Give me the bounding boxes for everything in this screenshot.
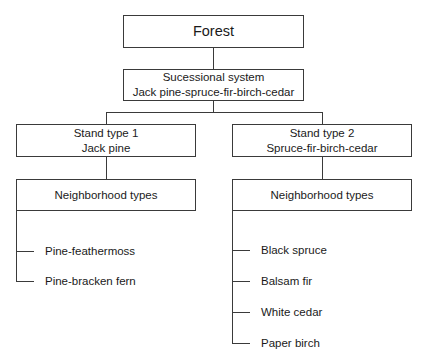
stand-1-subtitle: Jack pine	[82, 141, 131, 156]
list-2-spine	[232, 210, 233, 344]
list-2-tick-4	[232, 343, 250, 344]
connector-stand1-down	[106, 112, 107, 124]
list-1-spine	[16, 210, 17, 282]
neighborhood-types-1-node: Neighborhood types	[16, 179, 196, 211]
connector-stands-horizontal	[106, 112, 323, 113]
neighborhood-1-label: Neighborhood types	[55, 188, 158, 203]
neighborhood-types-2-node: Neighborhood types	[232, 179, 412, 211]
stand-1-title: Stand type 1	[74, 126, 139, 141]
forest-label: Forest	[193, 24, 234, 39]
connector-stand2-neighborhood	[322, 156, 323, 179]
connector-stand2-down	[322, 112, 323, 124]
neighborhood-item: Balsam fir	[261, 274, 312, 288]
neighborhood-2-label: Neighborhood types	[271, 188, 374, 203]
neighborhood-item: Black spruce	[261, 243, 327, 257]
list-2-tick-2	[232, 281, 250, 282]
neighborhood-item: White cedar	[261, 305, 322, 319]
list-2-tick-1	[232, 250, 250, 251]
stand-2-subtitle: Spruce-fir-birch-cedar	[266, 141, 377, 156]
neighborhood-item: Pine-bracken fern	[45, 274, 136, 288]
stand-2-title: Stand type 2	[290, 126, 355, 141]
system-subtitle: Jack pine-spruce-fir-birch-cedar	[133, 85, 295, 100]
stand-type-1-node: Stand type 1 Jack pine	[16, 124, 196, 157]
list-1-tick-2	[16, 281, 34, 282]
system-title: Sucessional system	[163, 70, 265, 85]
connector-forest-system	[213, 47, 214, 69]
forest-node: Forest	[123, 15, 304, 48]
connector-system-down	[213, 100, 214, 112]
neighborhood-item: Paper birch	[261, 336, 320, 350]
list-1-tick-1	[16, 251, 34, 252]
successional-system-node: Sucessional system Jack pine-spruce-fir-…	[123, 69, 304, 101]
stand-type-2-node: Stand type 2 Spruce-fir-birch-cedar	[232, 124, 412, 157]
list-2-tick-3	[232, 312, 250, 313]
neighborhood-item: Pine-feathermoss	[45, 244, 135, 258]
connector-stand1-neighborhood	[106, 156, 107, 179]
